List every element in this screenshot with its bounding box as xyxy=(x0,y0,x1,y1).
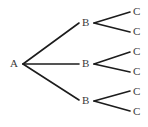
node-branch-b1: B xyxy=(82,17,89,28)
tree-edges-layer xyxy=(0,0,148,127)
node-branch-b2: B xyxy=(82,58,89,69)
edge-b1-c1 xyxy=(94,12,130,23)
node-leaf-c5: C xyxy=(133,86,140,97)
edge-a-b3 xyxy=(23,64,79,100)
edge-b3-c5 xyxy=(94,91,130,101)
edge-b2-c4 xyxy=(94,64,130,72)
node-leaf-c4: C xyxy=(133,66,140,77)
node-leaf-c6: C xyxy=(133,106,140,117)
node-leaf-c3: C xyxy=(133,46,140,57)
node-branch-b3: B xyxy=(82,95,89,106)
edge-b3-c6 xyxy=(94,101,130,111)
tree-diagram: A B B B C C C C C C xyxy=(0,0,148,127)
node-root-a: A xyxy=(10,58,18,69)
node-leaf-c2: C xyxy=(133,26,140,37)
edge-b2-c3 xyxy=(94,52,130,64)
node-leaf-c1: C xyxy=(133,6,140,17)
edge-a-b1 xyxy=(23,23,79,64)
edge-b1-c2 xyxy=(94,23,130,32)
